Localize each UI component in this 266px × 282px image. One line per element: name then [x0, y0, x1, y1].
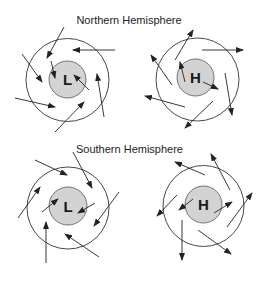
southern-hemisphere-title: Southern Hemisphere [76, 143, 183, 155]
wind-arrow-icon [55, 102, 84, 132]
southern-high-pressure-panel: H [157, 154, 252, 260]
wind-arrow-icon [185, 101, 213, 128]
wind-arrow-icon [225, 73, 232, 115]
wind-arrow-icon [175, 30, 193, 60]
wind-arrow-icon [65, 234, 99, 257]
wind-arrow-icon [157, 195, 177, 216]
low-pressure-label: L [63, 198, 72, 215]
high-pressure-label: H [198, 196, 209, 213]
northern-high-pressure-panel: H [145, 30, 243, 128]
wind-arrow-icon [97, 74, 104, 117]
wind-arrow-icon [18, 187, 40, 218]
northern-hemisphere-title: Northern Hemisphere [76, 14, 181, 26]
wind-arrow-icon [227, 193, 252, 227]
wind-arrow-icon [73, 152, 92, 188]
northern-low-pressure-panel: L [15, 27, 115, 132]
low-pressure-label: L [63, 71, 72, 88]
wind-arrow-icon [211, 154, 230, 190]
wind-arrow-icon [198, 230, 231, 254]
southern-low-pressure-panel: L [18, 152, 119, 263]
pressure-systems-diagram: Northern Hemisphere Southern Hemisphere … [0, 0, 266, 282]
high-pressure-label: H [190, 69, 201, 86]
